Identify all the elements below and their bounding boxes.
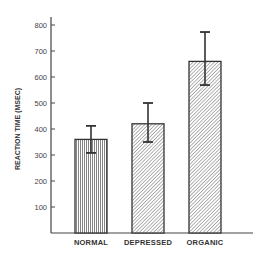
bar-chart: REACTION TIME (MSEC) 100 200 300 400 500… xyxy=(0,0,269,260)
y-tick-label: 800 xyxy=(34,21,47,30)
bar-organic xyxy=(189,61,221,233)
y-tick-labels: 100 200 300 400 500 600 700 800 xyxy=(34,21,47,212)
y-tick-label: 600 xyxy=(34,73,47,82)
x-tick-labels: NORMAL DEPRESSED ORGANIC xyxy=(74,238,224,247)
category-label-organic: ORGANIC xyxy=(187,238,224,247)
bars xyxy=(75,32,221,233)
y-tick-label: 300 xyxy=(34,151,47,160)
y-tick-label: 500 xyxy=(34,99,47,108)
y-tick-label: 400 xyxy=(34,125,47,134)
category-label-depressed: DEPRESSED xyxy=(124,238,172,247)
category-label-normal: NORMAL xyxy=(74,238,108,247)
y-axis-title: REACTION TIME (MSEC) xyxy=(14,88,22,170)
y-tick-label: 700 xyxy=(34,47,47,56)
y-tick-label: 100 xyxy=(34,203,47,212)
y-tick-label: 200 xyxy=(34,177,47,186)
